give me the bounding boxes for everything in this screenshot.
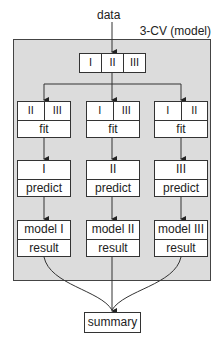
model-label: model III	[155, 221, 207, 239]
fit-label: fit	[18, 121, 70, 139]
model-label: model I	[18, 221, 70, 239]
fit-box-2: IIII fit	[86, 101, 140, 138]
fit-box-3: III fit	[154, 101, 208, 138]
data-label: data	[97, 8, 120, 22]
predict-box-1: I predict	[17, 160, 71, 197]
test-fold: II	[87, 161, 139, 179]
container-label: 3-CV (model)	[140, 24, 211, 38]
train-fold: III	[44, 102, 71, 120]
result-box-1: model I result	[17, 220, 71, 257]
test-fold: I	[18, 161, 70, 179]
predict-label: predict	[87, 180, 139, 198]
split-fold-3: III	[123, 54, 145, 72]
model-label: model II	[87, 221, 139, 239]
result-label: result	[18, 240, 70, 258]
summary-box: summary	[84, 312, 141, 333]
summary-label: summary	[85, 313, 140, 332]
predict-box-2: II predict	[86, 160, 140, 197]
fit-label: fit	[87, 121, 139, 139]
predict-box-3: III predict	[154, 160, 208, 197]
predict-label: predict	[18, 180, 70, 198]
predict-label: predict	[155, 180, 207, 198]
fit-label: fit	[155, 121, 207, 139]
data-split-box: I II III	[79, 53, 146, 73]
result-box-2: model II result	[86, 220, 140, 257]
split-fold-2: II	[101, 54, 123, 72]
train-fold: I	[155, 102, 181, 120]
result-label: result	[155, 240, 207, 258]
train-fold: II	[181, 102, 208, 120]
result-label: result	[87, 240, 139, 258]
train-fold: I	[87, 102, 113, 120]
test-fold: III	[155, 161, 207, 179]
train-fold: III	[113, 102, 140, 120]
train-fold: II	[18, 102, 44, 120]
result-box-3: model III result	[154, 220, 208, 257]
split-fold-1: I	[80, 54, 101, 72]
fit-box-1: IIIII fit	[17, 101, 71, 138]
